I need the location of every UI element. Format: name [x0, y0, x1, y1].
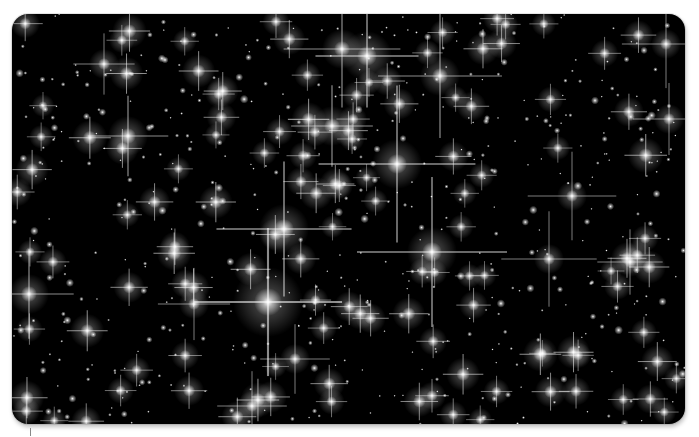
star-field-canvas	[12, 14, 685, 424]
frame-tick-mark	[30, 428, 31, 436]
star-field-image	[12, 14, 685, 424]
